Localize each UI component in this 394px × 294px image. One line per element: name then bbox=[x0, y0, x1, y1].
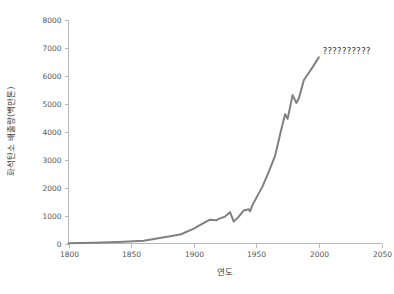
x-tick-label: 1900 bbox=[185, 250, 204, 259]
annotation-question-marks: ?????????? bbox=[323, 46, 371, 56]
y-tick-label: 2000 bbox=[42, 184, 61, 193]
y-axis-title: 화석탄소 배출량(백만톤) bbox=[6, 86, 16, 175]
emissions-line-series bbox=[69, 57, 319, 243]
y-tick-label: 5000 bbox=[42, 100, 61, 109]
x-tick-label: 1850 bbox=[122, 250, 141, 259]
chart-container: 010002000300040005000600070008000 180018… bbox=[0, 0, 394, 294]
x-tick-label: 2000 bbox=[310, 250, 329, 259]
y-axis-ticks: 010002000300040005000600070008000 bbox=[42, 16, 68, 249]
y-tick-label: 8000 bbox=[42, 16, 61, 25]
x-tick-label: 1950 bbox=[247, 250, 266, 259]
y-tick-label: 3000 bbox=[42, 156, 61, 165]
y-tick-label: 4000 bbox=[42, 128, 61, 137]
x-axis-ticks: 180018501900195020002050 bbox=[60, 244, 392, 259]
chart-plot-area: 010002000300040005000600070008000 180018… bbox=[0, 0, 394, 294]
x-tick-label: 1800 bbox=[60, 250, 79, 259]
y-tick-label: 7000 bbox=[42, 44, 61, 53]
x-axis-title: 연도 bbox=[217, 267, 233, 277]
y-tick-label: 1000 bbox=[42, 212, 61, 221]
y-tick-label: 6000 bbox=[42, 72, 61, 81]
y-tick-label: 0 bbox=[57, 240, 62, 249]
x-tick-label: 2050 bbox=[373, 250, 392, 259]
